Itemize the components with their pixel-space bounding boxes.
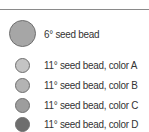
legend-label: 11° seed bead, color D	[44, 118, 138, 130]
bead-swatch-icon	[15, 117, 30, 132]
legend-item-color-b: 11° seed bead, color B	[0, 77, 149, 93]
bead-swatch-icon	[15, 98, 30, 113]
legend-label: 11° seed bead, color A	[44, 59, 137, 71]
bead-swatch-icon	[9, 20, 36, 47]
bead-swatch-icon	[15, 58, 30, 73]
legend-item-color-a: 11° seed bead, color A	[0, 57, 149, 73]
legend-item-color-c: 11° seed bead, color C	[0, 97, 149, 113]
legend-item-6-seed-bead: 6° seed bead	[0, 20, 149, 47]
bead-swatch-icon	[15, 78, 30, 93]
legend-label: 11° seed bead, color B	[44, 79, 138, 91]
bead-legend: 6° seed bead 11° seed bead, color A 11° …	[0, 0, 149, 132]
legend-item-color-d: 11° seed bead, color D	[0, 116, 149, 132]
legend-label: 6° seed bead	[44, 28, 99, 40]
legend-label: 11° seed bead, color C	[44, 99, 138, 111]
